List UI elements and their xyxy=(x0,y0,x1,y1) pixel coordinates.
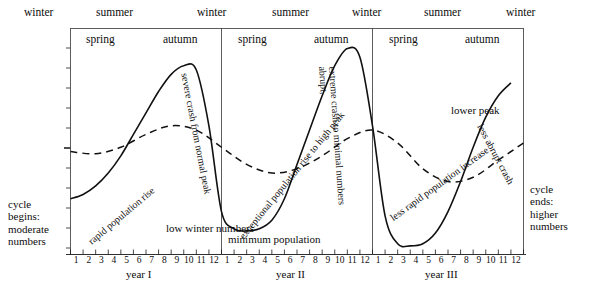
month-tick-label: 2 xyxy=(388,255,393,265)
month-tick-label: 9 xyxy=(476,255,481,265)
month-tick-label: 9 xyxy=(325,255,330,265)
month-tick-label: 11 xyxy=(499,255,508,265)
season-outer-summer-2: summer xyxy=(272,6,309,19)
month-tick-label: 5 xyxy=(124,255,129,265)
year-label-3: year III xyxy=(425,268,458,280)
month-tick-label: 1 xyxy=(225,255,230,265)
month-tick-label: 5 xyxy=(426,255,431,265)
season-outer-winter-1: winter xyxy=(24,6,53,19)
month-tick-label: 3 xyxy=(250,255,255,265)
month-tick-label: 12 xyxy=(511,255,521,265)
cycle-begins-note: cycle begins: moderate numbers xyxy=(8,198,49,247)
x-axis-month-ticks xyxy=(71,250,524,255)
population-cycle-figure: winter summer winter summer winter summe… xyxy=(0,0,594,289)
plot-frame xyxy=(66,28,526,255)
month-tick-label: 6 xyxy=(439,255,444,265)
month-tick-label: 12 xyxy=(209,255,219,265)
month-tick-label: 8 xyxy=(313,255,318,265)
month-tick-label: 3 xyxy=(401,255,406,265)
season-outer-summer-3: summer xyxy=(424,6,461,19)
month-tick-label: 2 xyxy=(86,255,91,265)
month-tick-label: 8 xyxy=(162,255,167,265)
season-inner-spring-1: spring xyxy=(86,33,115,46)
y-axis-ticks xyxy=(64,48,71,248)
season-inner-autumn-2: autumn xyxy=(314,33,349,46)
month-tick-label: 9 xyxy=(174,255,179,265)
month-tick-label: 11 xyxy=(197,255,206,265)
month-tick-label: 6 xyxy=(137,255,142,265)
season-outer-winter-4: winter xyxy=(506,6,535,19)
month-tick-label: 11 xyxy=(348,255,357,265)
month-tick-label: 5 xyxy=(275,255,280,265)
season-outer-summer-1: summer xyxy=(96,6,133,19)
month-tick-label: 4 xyxy=(414,255,419,265)
month-tick-label: 1 xyxy=(74,255,79,265)
season-outer-winter-2: winter xyxy=(197,6,226,19)
cycle-ends-note: cycle ends: higher numbers xyxy=(530,183,568,232)
month-tick-label: 12 xyxy=(360,255,370,265)
season-outer-winter-3: winter xyxy=(352,6,381,19)
month-tick-label: 8 xyxy=(464,255,469,265)
month-tick-label: 1 xyxy=(376,255,381,265)
season-inner-autumn-1: autumn xyxy=(163,33,198,46)
population-solid-curve xyxy=(71,47,511,246)
month-tick-label: 3 xyxy=(99,255,104,265)
month-tick-label: 10 xyxy=(184,255,194,265)
month-tick-label: 2 xyxy=(237,255,242,265)
month-tick-label: 7 xyxy=(300,255,305,265)
season-inner-spring-3: spring xyxy=(389,33,418,46)
year-label-2: year II xyxy=(276,268,305,280)
season-inner-spring-2: spring xyxy=(238,33,267,46)
lower-peak-note: lower peak xyxy=(451,104,500,116)
month-tick-label: 7 xyxy=(149,255,154,265)
year-label-1: year I xyxy=(126,268,151,280)
season-inner-autumn-3: autumn xyxy=(465,33,500,46)
month-tick-label: 6 xyxy=(288,255,293,265)
month-tick-label: 10 xyxy=(486,255,496,265)
month-tick-label: 4 xyxy=(263,255,268,265)
month-tick-label: 7 xyxy=(451,255,456,265)
month-tick-label: 4 xyxy=(112,255,117,265)
month-tick-label: 10 xyxy=(335,255,345,265)
